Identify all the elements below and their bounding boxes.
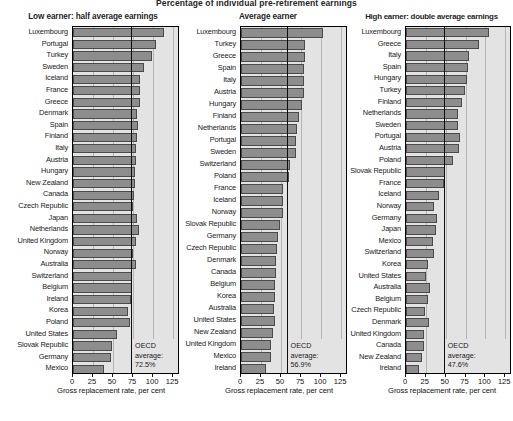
row-label: Luxembourg (196, 28, 236, 35)
row-label: Denmark (372, 318, 401, 325)
pension-replacement-rate-figure: Percentage of individual pre-retirement … (0, 0, 513, 421)
row-label: Finland (378, 98, 401, 105)
oecd-average-value: 47.6% (448, 360, 510, 370)
gridline (173, 27, 174, 373)
bar (406, 40, 479, 49)
bar (73, 283, 132, 292)
bar (406, 121, 458, 130)
row-label: Turkey (47, 51, 68, 58)
row-label: France (214, 184, 236, 191)
row-label: Slovak Republic (350, 167, 401, 174)
bar (241, 220, 280, 230)
plot-area: OECDaverage:72.5% (72, 26, 179, 374)
axis-tick-label: 50 (108, 377, 116, 386)
oecd-average-annotation: OECDaverage:56.9% (287, 339, 346, 373)
row-label: Denmark (39, 109, 68, 116)
bar (73, 202, 133, 211)
row-label: Denmark (207, 256, 236, 263)
row-label: Spain (383, 63, 401, 70)
row-label: Slovak Republic (17, 341, 68, 348)
row-label: United States (26, 330, 68, 337)
bar (73, 330, 117, 339)
bar (73, 365, 104, 374)
row-label: Greece (213, 52, 236, 59)
category-labels: LuxembourgPortugalTurkeySwedenIcelandFra… (0, 26, 70, 374)
oecd-average-label-line1: OECD (135, 341, 178, 351)
row-label: Australia (41, 260, 68, 267)
panel-low-earner: Low earner: half average earnings Luxemb… (0, 8, 186, 421)
panel-title: High earner: double average earnings (350, 12, 513, 21)
bar (406, 249, 434, 258)
axis-tick-label: 100 (478, 377, 491, 386)
bar (73, 295, 131, 304)
bar (406, 365, 419, 374)
row-label: Korea (217, 292, 236, 299)
oecd-average-label-line1: OECD (448, 341, 510, 351)
bar (406, 191, 439, 200)
oecd-average-value: 72.5% (135, 360, 178, 370)
bar (73, 353, 111, 362)
bar (241, 124, 297, 134)
bar (241, 316, 275, 326)
oecd-average-label-line1: OECD (291, 341, 346, 351)
row-label: New Zealand (194, 328, 236, 335)
axis-tick-label: 125 (498, 377, 511, 386)
bar (241, 196, 283, 206)
row-label: Mexico (378, 237, 401, 244)
row-label: Austria (46, 156, 68, 163)
row-label: Japan (382, 225, 401, 232)
axis-tick-label: 75 (128, 377, 136, 386)
oecd-average-annotation: OECDaverage:72.5% (131, 339, 178, 373)
bar (406, 214, 437, 223)
gridline (485, 27, 486, 373)
bar (406, 144, 459, 153)
oecd-average-line (287, 27, 288, 373)
bar (241, 28, 323, 38)
bar (73, 28, 164, 37)
row-label: Finland (213, 112, 236, 119)
bar (73, 121, 138, 130)
row-label: Greece (378, 40, 401, 47)
bar (73, 225, 139, 234)
row-label: Norway (212, 208, 236, 215)
row-label: Hungary (209, 100, 236, 107)
bar (406, 75, 467, 84)
bar (406, 156, 453, 165)
bar (73, 156, 136, 165)
row-label: France (46, 86, 68, 93)
row-label: Portugal (210, 136, 236, 143)
row-label: Germany (372, 214, 401, 221)
row-label: Netherlands (198, 124, 236, 131)
row-label: Korea (49, 306, 68, 313)
row-label: Austria (214, 88, 236, 95)
row-label: Japan (49, 214, 68, 221)
x-axis-title: Gross replacement rate, per cent (204, 386, 354, 395)
row-label: Iceland (45, 74, 68, 81)
row-label: Luxembourg (28, 28, 68, 35)
gridline (153, 27, 154, 373)
bar (73, 214, 137, 223)
bar (73, 179, 135, 188)
x-axis-title: Gross replacement rate, per cent (36, 386, 186, 395)
row-label: Luxembourg (361, 28, 401, 35)
axis-tick-label: 125 (334, 377, 347, 386)
gridline (505, 27, 506, 373)
plot-area: OECDaverage:47.6% (405, 26, 511, 374)
bar (73, 318, 130, 327)
bar (406, 51, 469, 60)
bar (241, 160, 290, 170)
bar (241, 268, 276, 278)
category-labels: LuxembourgTurkeyGreeceSpainItalyAustriaH… (186, 26, 238, 374)
row-label: Germany (207, 232, 236, 239)
row-label: Ireland (379, 364, 401, 371)
bar (241, 208, 283, 218)
bar (406, 330, 424, 339)
panel-high-earner: High earner: double average earnings Lux… (350, 8, 513, 421)
gridline (321, 27, 322, 373)
bar (241, 340, 271, 350)
row-label: Czech Republic (18, 202, 68, 209)
row-label: Austria (379, 144, 401, 151)
axis-tick-label: 125 (166, 377, 179, 386)
bar (241, 88, 304, 98)
row-label: United Kingdom (18, 237, 69, 244)
